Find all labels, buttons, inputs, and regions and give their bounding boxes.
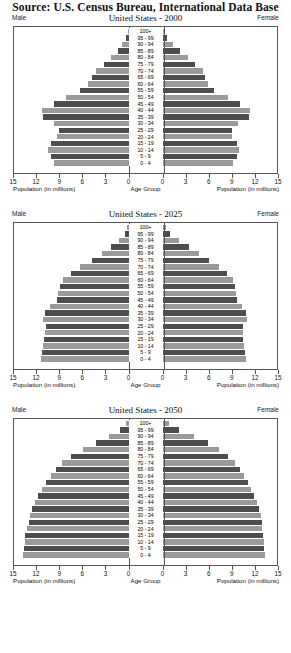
female-axis-caption: Population (in millions) (217, 185, 279, 192)
male-bar (30, 513, 128, 518)
male-half (14, 120, 129, 127)
axis-tick (209, 174, 210, 178)
male-half (14, 134, 129, 141)
pyramid-row: 10 - 14 (14, 343, 277, 350)
age-group-label: 15 - 19 (129, 532, 163, 539)
axis-tick-label: 3 (184, 374, 188, 381)
male-half (14, 460, 129, 467)
age-group-label: 60 - 64 (129, 81, 163, 88)
pyramid-row: 85 - 89 (14, 440, 277, 447)
female-bar (163, 147, 239, 152)
age-group-label: 65 - 69 (129, 74, 163, 81)
pyramid-row: 25 - 29 (14, 127, 277, 134)
bar-rows: 100+95 - 9990 - 9485 - 8980 - 8475 - 797… (14, 420, 277, 564)
axis-tick-label: 6 (81, 570, 85, 577)
female-half (163, 114, 278, 121)
axis-tick (232, 566, 233, 570)
male-bar (80, 264, 129, 269)
female-axis-caption: Population (in millions) (217, 577, 279, 584)
male-half (14, 532, 129, 539)
male-bar (63, 277, 129, 282)
age-group-label: 20 - 24 (129, 330, 163, 337)
female-half (163, 231, 278, 238)
age-group-label: 75 - 79 (129, 61, 163, 68)
male-half (14, 107, 129, 114)
female-half (163, 101, 278, 108)
female-bar (163, 447, 219, 452)
pyramid-row: 50 - 54 (14, 486, 277, 493)
male-half (14, 61, 129, 68)
axis-tick (82, 370, 83, 374)
female-half (163, 140, 278, 147)
male-bar (25, 539, 129, 544)
female-half (163, 479, 278, 486)
axis-tick (13, 370, 14, 374)
pyramid-row: 45 - 49 (14, 297, 277, 304)
axis-tick-label: 9 (230, 178, 234, 185)
pyramid-row: 30 - 34 (14, 120, 277, 127)
pyramid-row: 100+ (14, 420, 277, 427)
age-group-caption: Age Group (131, 381, 161, 388)
pyramid-row: 60 - 64 (14, 277, 277, 284)
male-bar (57, 297, 129, 302)
female-half (163, 270, 278, 277)
male-bar (51, 141, 129, 146)
chart-header: MaleUnited States - 2000Female (12, 13, 279, 26)
axis-tick (255, 174, 256, 178)
pyramid-chart: MaleUnited States - 2000Female100+95 - 9… (0, 13, 291, 209)
pyramid-row: 95 - 99 (14, 231, 277, 238)
male-half (14, 290, 129, 297)
male-bar (66, 95, 129, 100)
axis-tick (232, 174, 233, 178)
female-half (163, 35, 278, 42)
pyramid-row: 55 - 59 (14, 283, 277, 290)
female-bar (163, 330, 243, 335)
axis-tick (82, 566, 83, 570)
bar-rows: 100+95 - 9990 - 9485 - 8980 - 8475 - 797… (14, 224, 277, 368)
female-half (163, 453, 278, 460)
female-bar (163, 356, 246, 361)
axis-tick (13, 174, 14, 178)
axis-tick (59, 566, 60, 570)
age-group-label: 5 - 9 (129, 349, 163, 356)
pyramid-row: 85 - 89 (14, 48, 277, 55)
female-half (163, 257, 278, 264)
axis-tick-label: 15 (274, 374, 281, 381)
x-axis: 1512963003691215 (13, 370, 278, 380)
pyramid-row: 35 - 39 (14, 114, 277, 121)
axis-captions: Population (in millions)Age GroupPopulat… (0, 381, 291, 393)
axis-tick (278, 174, 279, 178)
male-half (14, 114, 129, 121)
male-bar (88, 81, 128, 86)
female-half (163, 283, 278, 290)
male-half (14, 244, 129, 251)
chart-header: MaleUnited States - 2025Female (12, 209, 279, 222)
female-half (163, 120, 278, 127)
age-group-label: 20 - 24 (129, 526, 163, 533)
male-bar (120, 427, 128, 432)
male-bar (102, 251, 129, 256)
female-half (163, 512, 278, 519)
axis-tick-label: 0 (127, 178, 131, 185)
pyramid-row: 65 - 69 (14, 466, 277, 473)
axis-tick (82, 174, 83, 178)
female-axis-caption: Population (in millions) (217, 381, 279, 388)
pyramid-row: 70 - 74 (14, 264, 277, 271)
female-bar (163, 101, 240, 106)
female-half (163, 460, 278, 467)
male-half (14, 310, 129, 317)
female-half (163, 420, 278, 427)
female-half (163, 147, 278, 154)
pyramid-row: 100+ (14, 224, 277, 231)
center-axis-line-right (164, 27, 165, 173)
axis-tick-label: 3 (104, 178, 108, 185)
age-group-label: 60 - 64 (129, 473, 163, 480)
pyramid-row: 25 - 29 (14, 519, 277, 526)
male-half (14, 28, 129, 35)
male-bar (50, 304, 129, 309)
female-bar (163, 95, 229, 100)
pyramid-row: 15 - 19 (14, 336, 277, 343)
female-half (163, 473, 278, 480)
axis-tick-label: 15 (274, 570, 281, 577)
male-half (14, 54, 129, 61)
